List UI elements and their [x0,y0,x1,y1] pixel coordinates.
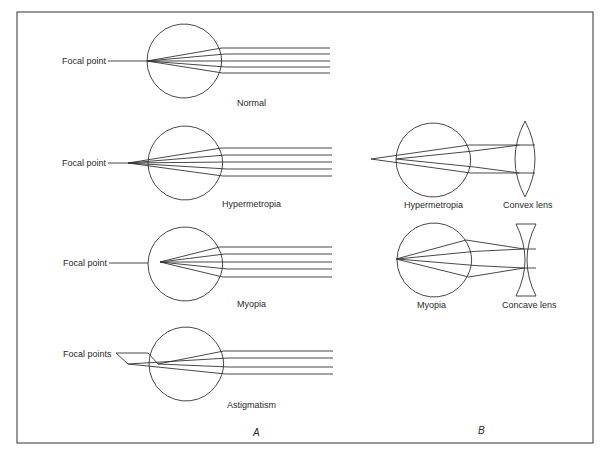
refracted-ray [158,364,229,367]
panel-a-label: A [252,427,260,438]
corrected-ray [475,249,524,251]
eye-myopia: Focal pointMyopia [63,227,332,309]
refracted-ray [396,159,474,167]
refracted-ray [128,358,228,364]
refracted-ray [128,148,221,163]
refracted-ray [147,54,225,61]
focal-point-label: Focal points [63,349,112,359]
focal-point-label: Focal point [63,258,108,268]
eye-caption: Hypermetropia [404,200,463,210]
corrected-ray [474,167,519,173]
panel-b-label: B [478,425,485,436]
corrected-ray [476,266,524,268]
convex-lens [515,121,535,197]
panel-b-corrective-lenses: HypermetropiaConvex lensMyopiaConcave le… [371,121,557,310]
focal-point-label: Focal point [62,158,107,168]
eye-normal: Focal pointNormal [62,24,330,108]
refracted-ray [160,262,223,277]
lens-caption: Concave lens [502,300,557,310]
eye-caption: Myopia [237,299,266,309]
panel-a-refractive-errors: Focal pointNormalFocal pointHypermetropi… [62,24,333,410]
corrected-ray [466,240,524,249]
eye-caption: Hypermetropia [222,199,281,209]
focal-leader-line [116,353,128,364]
eye-caption: Myopia [417,300,446,310]
eye-caption: Astigmatism [227,400,276,410]
refraction-diagram: Focal pointNormalFocal pointHypermetropi… [0,0,610,465]
refracted-ray [396,240,466,259]
refracted-ray [160,262,227,269]
refracted-ray [396,151,473,159]
corrected-ray [473,145,519,151]
lens-caption: Convex lens [503,200,553,210]
corrected-myopia-corrected: MyopiaConcave lens [396,223,557,310]
eyeball-outline [148,227,223,301]
refracted-ray [160,254,225,262]
refracted-ray [147,61,226,67]
focal-point-label: Focal point [62,56,107,66]
refracted-ray [147,48,222,61]
refracted-ray [128,163,227,169]
corrected-hypermetropia-corrected: HypermetropiaConvex lens [371,121,553,210]
refracted-ray [160,247,220,262]
corrected-ray [469,268,524,277]
eye-caption: Normal [237,98,266,108]
eye-hypermetropia: Focal pointHypermetropia [62,126,332,209]
concave-lens [516,224,536,296]
figure-frame [17,12,593,443]
refracted-ray [128,163,223,176]
eye-astigmatism: Focal pointsAstigmatism [63,327,333,410]
refracted-ray [128,364,226,374]
refracted-ray [147,61,223,73]
